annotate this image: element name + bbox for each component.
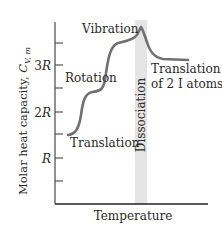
y-ticks	[55, 43, 63, 181]
ytick-3R: 3R	[34, 59, 51, 73]
ytick-2R: 2R	[34, 106, 51, 120]
heat-capacity-chart: 3R 2R R Molar heat capacity, CV, m Tempe…	[0, 0, 222, 229]
annotation-vibration: Vibration	[81, 22, 139, 36]
annotation-dissociation: Dissociation	[134, 78, 148, 153]
y-axis-label: Molar heat capacity, CV, m	[16, 47, 32, 196]
annotation-translation-2i-line2: of 2 I atoms	[151, 77, 222, 91]
ytick-R: R	[41, 152, 51, 166]
x-axis-label: Temperature	[94, 209, 173, 223]
annotation-translation-2i-line1: Translation	[151, 62, 221, 76]
annotation-rotation: Rotation	[65, 71, 117, 85]
annotation-translation: Translation	[70, 136, 140, 150]
